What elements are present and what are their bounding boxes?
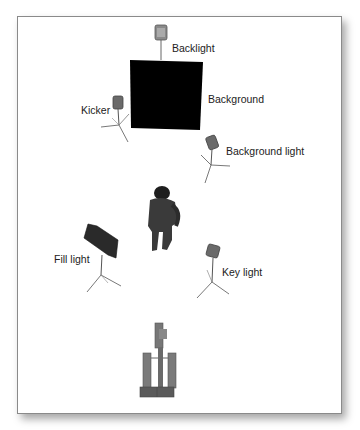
lighting-scene (0, 0, 360, 430)
background-panel (130, 60, 203, 130)
background-light-label: Background light (226, 145, 304, 157)
kicker-icon (101, 96, 129, 142)
backlight-label: Backlight (172, 42, 215, 54)
background-label: Background (208, 93, 264, 105)
fill-light-label: Fill light (54, 253, 90, 265)
backlight-icon (155, 25, 167, 60)
camera-crane-icon (140, 323, 176, 397)
subject-figure-icon (148, 186, 178, 251)
kicker-label: Kicker (81, 104, 110, 116)
background-light-icon (201, 135, 230, 183)
key-light-label: Key light (222, 266, 262, 278)
